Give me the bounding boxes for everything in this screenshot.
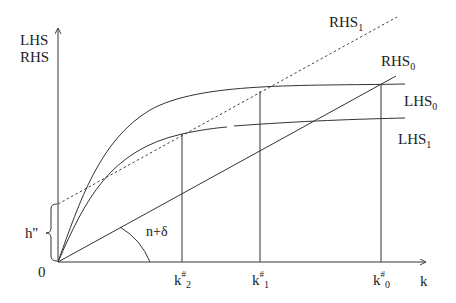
x-axis-label: k: [420, 273, 428, 289]
steady-state-diagram: LHS RHS RHS1 RHS0 LHS0 LHS1 n+δ h'' 0 k#…: [0, 0, 456, 303]
rhs1-line: [58, 17, 397, 204]
intercept-label: h'': [25, 225, 38, 241]
angle-label: n+δ: [146, 224, 168, 239]
intercept-brace: [46, 204, 57, 261]
lhs0-label: LHS0: [404, 93, 437, 112]
tick-label-k1: k#1: [252, 269, 269, 290]
rhs0-label: RHS0: [381, 53, 415, 72]
y-axis-label-lhs: LHS: [20, 32, 48, 48]
tick-label-k0: k#0: [373, 269, 390, 290]
rhs1-label: RHS1: [329, 14, 363, 33]
origin-label: 0: [38, 264, 46, 280]
rhs0-line: [58, 76, 396, 262]
tick-label-k2: k#2: [174, 269, 191, 290]
y-axis-label-rhs: RHS: [20, 49, 49, 65]
lhs1-label: LHS1: [398, 131, 431, 150]
